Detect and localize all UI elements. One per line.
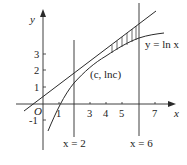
point-label: (c, lnc) — [90, 68, 121, 81]
x-tick-4: 4 — [103, 108, 109, 119]
y-axis — [40, 9, 46, 150]
x-tick-1: 1 — [56, 108, 61, 119]
vertical-line-x2-label: x = 2 — [63, 137, 86, 149]
x-axis-label: x — [173, 107, 179, 119]
diagram: 1 3 4 5 7 3 2 1 -1 O x y (c, lnc) y = ln… — [0, 0, 187, 165]
y-tick-2: 2 — [34, 65, 39, 76]
y-axis-label: y — [29, 13, 35, 25]
x-tick-5: 5 — [119, 108, 124, 119]
tangent-line — [24, 11, 156, 111]
x-tick-7: 7 — [152, 108, 157, 119]
origin-label: O — [34, 105, 42, 117]
x-tick-3: 3 — [87, 108, 92, 119]
y-tick-1: 1 — [34, 82, 39, 93]
y-axis-arrow-icon — [40, 9, 46, 17]
y-tick-3: 3 — [34, 49, 39, 60]
hatched-region — [112, 26, 136, 53]
curve-label: y = ln x — [145, 38, 180, 50]
vertical-line-x6-label: x = 6 — [130, 137, 153, 149]
plot-svg: 1 3 4 5 7 3 2 1 -1 O x y (c, lnc) y = ln… — [0, 0, 187, 165]
